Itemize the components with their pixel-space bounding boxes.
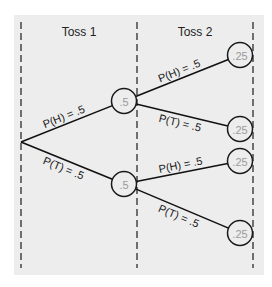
toss2-outcome-node: .25	[228, 117, 253, 142]
toss1-outcome-node-h: .5	[112, 89, 137, 114]
node-probability-value: .25	[232, 124, 247, 136]
node-probability-value: .25	[232, 156, 247, 168]
toss2-outcome-node: .25	[228, 43, 253, 68]
column-header-toss-1: Toss 1	[62, 25, 97, 39]
node-probability-value: .25	[232, 228, 247, 240]
toss2-outcome-node: .25	[228, 221, 253, 246]
node-probability-value: .5	[119, 179, 128, 191]
column-header-toss-2: Toss 2	[178, 25, 213, 39]
node-probability-value: .5	[119, 96, 128, 108]
toss1-outcome-node-t: .5	[112, 172, 137, 197]
diagram-background	[14, 15, 264, 275]
node-probability-value: .25	[232, 50, 247, 62]
toss2-outcome-node: .25	[228, 149, 253, 174]
probability-tree-diagram: Toss 1Toss 2 P(H) = .5P(T) = .5P(H) = .5…	[0, 0, 272, 287]
